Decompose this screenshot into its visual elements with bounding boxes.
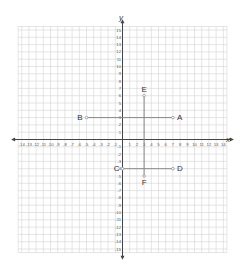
point-B-marker-icon — [85, 116, 88, 119]
y-tick-label: 11 — [117, 57, 122, 62]
point-label-D: D — [177, 164, 183, 173]
y-tick-label: 14 — [116, 35, 121, 40]
point-label-F: F — [142, 178, 147, 187]
x-tick-label: 8 — [179, 142, 182, 147]
x-tick-label: -2 — [106, 142, 110, 147]
x-tick-label: 7 — [172, 142, 175, 147]
x-tick-label: 5 — [157, 142, 160, 147]
y-tick-label: 15 — [116, 28, 121, 33]
x-tick-label: -4 — [92, 142, 96, 147]
point-F-marker-icon — [143, 175, 146, 178]
points: ABCDEF — [77, 85, 183, 187]
point-label-B: B — [77, 113, 82, 122]
y-tick-label: -12 — [115, 225, 122, 230]
y-tick-label: -15 — [115, 247, 122, 252]
x-tick-label: -14 — [19, 142, 26, 147]
point-A-marker-icon — [172, 116, 175, 119]
x-tick-label: 10 — [192, 142, 197, 147]
y-tick-label: 13 — [116, 42, 121, 47]
point-D-marker-icon — [172, 167, 175, 170]
x-tick-label: 13 — [214, 142, 219, 147]
x-tick-label: 9 — [186, 142, 189, 147]
x-tick-label: 2 — [136, 142, 139, 147]
x-tick-label: -3 — [99, 142, 103, 147]
x-tick-label: -13 — [26, 142, 33, 147]
x-tick-label: -9 — [56, 142, 60, 147]
point-label-E: E — [141, 85, 146, 94]
coordinate-plane: -14-13-12-11-10-9-8-7-6-5-4-3-2-11234567… — [0, 0, 246, 274]
y-tick-label: -10 — [115, 210, 122, 215]
y-tick-label: 10 — [116, 64, 121, 69]
point-E-marker-icon — [143, 94, 146, 97]
point-label-A: A — [177, 113, 183, 122]
y-tick-label: -13 — [115, 232, 122, 237]
x-tick-label: 6 — [165, 142, 168, 147]
x-tick-label: -10 — [47, 142, 54, 147]
x-tick-label: 4 — [150, 142, 153, 147]
y-tick-label: 12 — [116, 49, 121, 54]
y-tick-label: -14 — [115, 239, 122, 244]
x-tick-label: -7 — [70, 142, 74, 147]
point-C-marker-icon — [121, 167, 124, 170]
x-tick-label: -12 — [33, 142, 40, 147]
point-label-C: C — [114, 164, 120, 173]
x-axis-arrow-left-icon — [11, 138, 15, 142]
x-tick-label: -6 — [77, 142, 81, 147]
x-tick-label: -11 — [40, 142, 46, 147]
x-axis-arrow-right-icon — [230, 138, 234, 142]
x-tick-label: 1 — [129, 142, 132, 147]
x-tick-label: -5 — [85, 142, 89, 147]
y-axis-arrow-down-icon — [121, 256, 125, 260]
y-tick-label: -11 — [115, 217, 121, 222]
x-tick-label: 12 — [207, 142, 212, 147]
coordinate-grid-svg: -14-13-12-11-10-9-8-7-6-5-4-3-2-11234567… — [0, 0, 246, 274]
x-tick-label: -8 — [63, 142, 67, 147]
x-tick-label: 11 — [200, 142, 205, 147]
axes — [11, 19, 234, 259]
